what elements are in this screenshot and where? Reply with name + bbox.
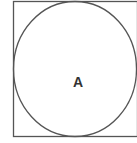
inscribed-circle [14,2,137,137]
diagram-canvas: A [0,0,137,143]
region-label-a: A [73,74,83,90]
